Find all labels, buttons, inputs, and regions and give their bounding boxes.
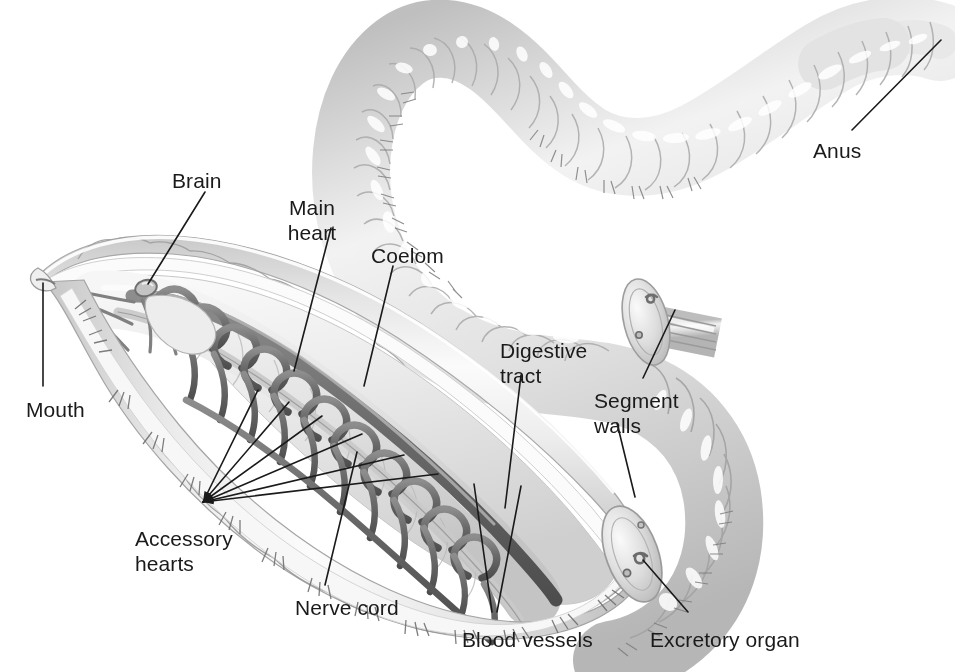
label-coelom: Coelom [371,243,444,268]
excretory-pore-upper [636,332,642,338]
anterior-body-group [31,235,674,644]
label-mouth: Mouth [26,397,85,422]
label-nerve-cord: Nerve cord [295,595,399,620]
label-main-heart: Main heart [288,195,336,245]
label-accessory-hearts: Accessory hearts [135,526,233,576]
diagram-canvas: BrainMain heartCoelomAnusDigestive tract… [0,0,955,672]
label-blood-vessels: Blood vessels [462,627,593,652]
label-excretory-organ: Excretory organ [650,627,800,652]
label-digestive-tract: Digestive tract [500,338,587,388]
label-brain: Brain [172,168,222,193]
excretory-pore [623,569,630,576]
segment-wall-pore-upper [638,522,644,528]
label-anus: Anus [813,138,861,163]
label-segment-walls: Segment walls [594,388,679,438]
